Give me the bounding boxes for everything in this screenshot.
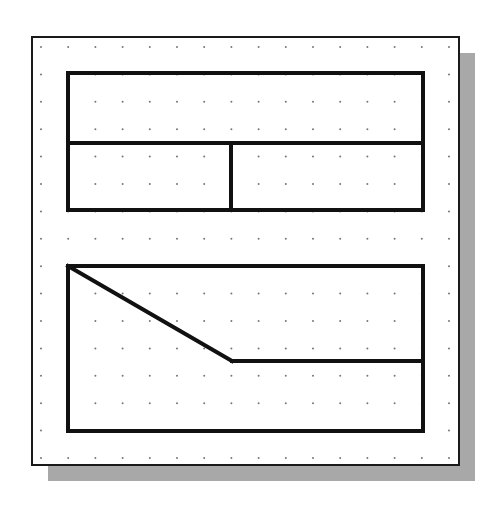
drawing-canvas [0, 0, 495, 512]
